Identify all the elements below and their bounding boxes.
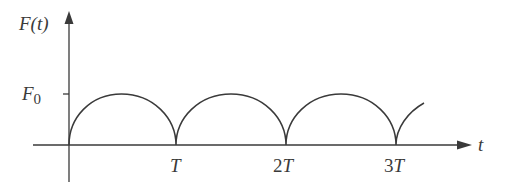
x-axis-label: t (478, 134, 484, 155)
f0-label: F0 (21, 83, 41, 107)
y-axis-label: F(t) (18, 13, 49, 35)
waveform-curve (69, 94, 424, 145)
tick-label-3T: 3T (384, 155, 406, 176)
f0-label-main: F (21, 83, 34, 104)
waveform-diagram: F(t) t F0 T 2T 3T (0, 0, 509, 187)
y-axis-arrow-icon (65, 11, 74, 24)
tick-label-2T: 2T (273, 155, 295, 176)
x-axis-arrow-icon (457, 141, 472, 150)
f0-label-subscript: 0 (34, 91, 42, 107)
tick-label-T: T (170, 155, 182, 176)
